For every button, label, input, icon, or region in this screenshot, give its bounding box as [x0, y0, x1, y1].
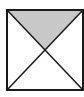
square-diagonals-diagram [0, 0, 84, 97]
